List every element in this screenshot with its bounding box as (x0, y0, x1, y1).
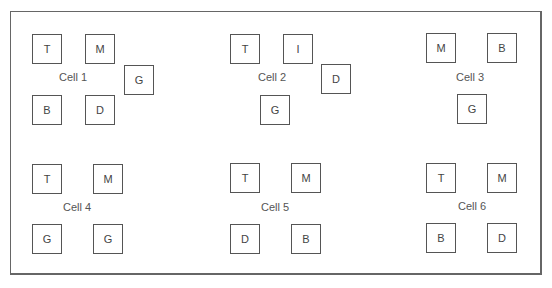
cell-label: Cell 3 (456, 71, 484, 83)
station-box: D (321, 64, 351, 94)
station-box: G (124, 65, 154, 95)
station-box: M (85, 34, 115, 64)
station-box: G (260, 95, 290, 125)
station-box: T (32, 34, 62, 64)
station-box: T (230, 34, 260, 64)
station-box: B (487, 33, 517, 63)
cell-label: Cell 5 (261, 201, 289, 213)
station-box: G (93, 224, 123, 254)
station-box: T (230, 163, 260, 193)
station-box: M (291, 163, 321, 193)
cell-label: Cell 6 (458, 200, 486, 212)
cell-label: Cell 1 (59, 71, 87, 83)
station-box: D (487, 223, 517, 253)
station-box: D (85, 95, 115, 125)
station-box: M (426, 33, 456, 63)
cell-label: Cell 2 (258, 71, 286, 83)
station-box: G (32, 224, 62, 254)
station-box: D (230, 224, 260, 254)
station-box: B (426, 223, 456, 253)
station-box: G (457, 94, 487, 124)
station-box: B (291, 224, 321, 254)
station-box: B (32, 95, 62, 125)
cell-label: Cell 4 (63, 201, 91, 213)
station-box: T (32, 164, 62, 194)
station-box: M (487, 163, 517, 193)
station-box: M (93, 164, 123, 194)
station-box: I (283, 34, 313, 64)
station-box: T (426, 163, 456, 193)
